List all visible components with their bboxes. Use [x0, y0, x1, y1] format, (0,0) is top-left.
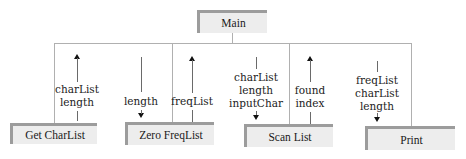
param-label: charList length inputChar: [229, 71, 283, 110]
module-main-label: Main: [221, 17, 245, 29]
module-label: Get CharList: [25, 129, 85, 141]
param-arrow-line: [141, 57, 142, 92]
param-arrow-line: [192, 110, 193, 122]
arrow-down-icon: [374, 117, 380, 122]
module-main: Main: [197, 10, 267, 33]
connector-print: [411, 43, 412, 126]
param-arrow-line: [256, 57, 257, 69]
param-arrow-line: [377, 61, 378, 72]
param-arrow-line: [310, 60, 311, 82]
module-print: Print: [365, 126, 455, 150]
param-label: freqList: [171, 95, 213, 108]
param-label: charList length: [55, 83, 99, 109]
param-arrow-line: [310, 112, 311, 124]
module-label: Scan List: [268, 131, 311, 143]
module-scan-list: Scan List: [244, 124, 333, 147]
connector-zero-freqlist: [172, 43, 173, 122]
param-arrow-line: [192, 60, 193, 93]
param-arrow-line: [141, 110, 142, 114]
module-label: Zero FreqList: [139, 129, 203, 141]
module-get-charlist: Get CharList: [10, 123, 97, 144]
param-label: freqList charList length: [355, 74, 399, 113]
connector-scan-list: [289, 43, 290, 124]
param-label: length: [124, 95, 158, 108]
param-arrow-line: [77, 111, 78, 121]
horizontal-bus: [54, 43, 412, 44]
root-stem: [232, 33, 233, 43]
arrow-down-icon: [253, 115, 259, 120]
module-zero-freqlist: Zero FreqList: [125, 122, 214, 145]
param-label: found index: [295, 84, 325, 110]
module-label: Print: [400, 134, 422, 146]
param-arrow-line: [77, 58, 78, 82]
